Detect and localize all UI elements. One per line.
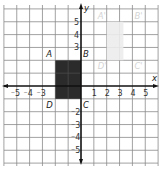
y-tick-label: 4 <box>74 31 79 40</box>
image-rectangle <box>107 22 124 61</box>
y-axis-label: y <box>83 3 90 13</box>
coordinate-plane: x y ⁻5⁻4⁻312345543⁻2⁻3⁻4⁻5 ABCDA'B'C'D' <box>0 0 161 169</box>
vertex-label-d: D <box>46 100 53 110</box>
x-axis-arrow-left-icon <box>2 84 8 88</box>
vertex-label-b: B <box>83 49 89 59</box>
y-tick-label: ⁻3 <box>71 121 80 130</box>
x-tick-label: 3 <box>118 89 123 98</box>
x-axis-label: x <box>151 73 158 83</box>
x-tick-label: ⁻5 <box>11 89 20 98</box>
y-axis-arrow-down-icon <box>79 159 83 165</box>
x-tick-label: 2 <box>105 89 110 98</box>
y-tick-label: 5 <box>74 18 79 27</box>
x-tick-label: ⁻4 <box>24 89 33 98</box>
vertex-label-a-prime: A' <box>97 11 106 21</box>
vertex-label-a: A <box>45 49 52 59</box>
y-tick-label: ⁻2 <box>71 108 80 117</box>
y-tick-label: ⁻4 <box>71 133 80 142</box>
x-tick-label: 4 <box>130 89 135 98</box>
y-axis-arrow-up-icon <box>79 3 83 9</box>
x-tick-label: 5 <box>143 89 148 98</box>
y-tick-label: 3 <box>74 43 79 52</box>
vertex-label-b-prime: B' <box>134 11 142 21</box>
vertex-label-d-prime: D' <box>98 61 107 71</box>
vertex-label-c-prime: C' <box>134 61 142 71</box>
y-tick-label: ⁻5 <box>71 146 80 155</box>
x-tick-label: ⁻3 <box>36 89 45 98</box>
vertex-label-c: C <box>83 100 89 110</box>
axes: x y <box>2 3 159 165</box>
x-tick-label: 1 <box>92 89 97 98</box>
